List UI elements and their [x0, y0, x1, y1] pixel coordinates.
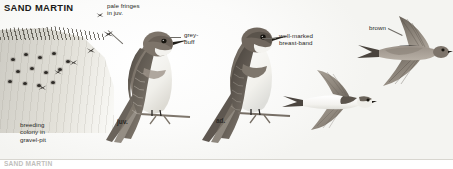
- nest-hole: [30, 67, 34, 70]
- nest-hole: [8, 80, 12, 83]
- label-breeding-colony: breeding colony in gravel-pit: [20, 121, 46, 143]
- leader-line-breast-band: [262, 38, 276, 39]
- bank-top-vegetation: [0, 24, 104, 40]
- label-adult: ad.: [216, 117, 225, 124]
- nest-hole: [23, 82, 27, 85]
- sand-bank-strata: [0, 28, 114, 133]
- leader-line-grey-buff: [168, 37, 181, 38]
- perched-adult-bird: [198, 16, 292, 146]
- distant-martin-silhouette: [54, 69, 62, 75]
- bottom-caption-text: SAND MARTIN: [4, 160, 52, 167]
- label-pale-fringes: pale fringes in juv.: [107, 2, 140, 17]
- label-breast-band: well-marked breast-band: [279, 32, 313, 47]
- sand-martin-plate: SAND MARTIN: [0, 0, 453, 169]
- nest-hole: [38, 56, 42, 59]
- nest-hole: [51, 81, 55, 84]
- label-brown: brown: [369, 24, 386, 31]
- nest-hole: [11, 58, 15, 61]
- distant-martin-silhouette: [38, 84, 47, 91]
- bottom-caption-strip: SAND MARTIN: [0, 160, 453, 169]
- nest-hole: [24, 53, 28, 56]
- nest-hole: [52, 52, 56, 55]
- nest-hole: [16, 70, 20, 73]
- page-title: SAND MARTIN: [4, 2, 73, 13]
- label-grey-buff: grey- buff: [184, 31, 198, 46]
- distant-martin-silhouette: [69, 59, 78, 66]
- label-juvenile: juv.: [117, 118, 128, 125]
- nest-hole: [44, 71, 48, 74]
- distant-martin-silhouette: [86, 47, 96, 54]
